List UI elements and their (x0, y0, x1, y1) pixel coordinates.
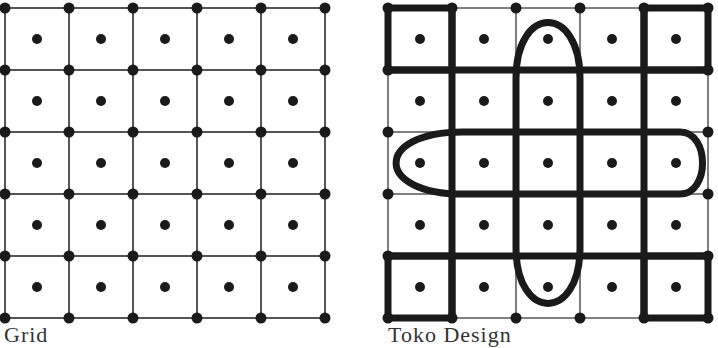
node-dot (320, 251, 331, 262)
center-dot (160, 220, 170, 230)
center-dot (224, 282, 234, 292)
node-dot (128, 65, 139, 76)
node-dot (320, 3, 331, 14)
node-dot (0, 65, 11, 76)
node-dot (320, 313, 331, 324)
node-dot (511, 313, 522, 324)
node-dot (64, 127, 75, 138)
node-dot (192, 189, 203, 200)
node-dot (64, 65, 75, 76)
center-dot (96, 282, 106, 292)
center-dot (32, 96, 42, 106)
node-dot (64, 313, 75, 324)
center-dot (415, 96, 425, 106)
center-dot (224, 220, 234, 230)
node-dot (192, 127, 203, 138)
center-dot (96, 158, 106, 168)
node-dot (256, 65, 267, 76)
node-dot (128, 313, 139, 324)
node-dot (383, 189, 394, 200)
center-dot (288, 34, 298, 44)
center-dot (479, 282, 489, 292)
node-dot (320, 127, 331, 138)
center-dot (543, 158, 553, 168)
center-dot (543, 96, 553, 106)
node-dot (0, 3, 11, 14)
center-dot (671, 34, 681, 44)
center-dot (479, 34, 489, 44)
center-dot (32, 34, 42, 44)
toko-design-diagram (383, 3, 714, 324)
node-dot (64, 189, 75, 200)
center-dot (32, 282, 42, 292)
center-dot (607, 96, 617, 106)
node-dot (64, 3, 75, 14)
center-dot (288, 96, 298, 106)
node-dot (192, 313, 203, 324)
node-dot (128, 127, 139, 138)
center-dot (607, 158, 617, 168)
node-dot (575, 313, 586, 324)
node-dot (383, 65, 394, 76)
center-dot (415, 282, 425, 292)
center-dot (607, 34, 617, 44)
node-dot (128, 189, 139, 200)
center-dot (415, 158, 425, 168)
center-dot (543, 220, 553, 230)
center-dot (607, 282, 617, 292)
node-dot (256, 251, 267, 262)
node-dot (383, 127, 394, 138)
center-dot (96, 34, 106, 44)
center-dot (479, 220, 489, 230)
node-dot (703, 313, 714, 324)
center-dot (224, 158, 234, 168)
node-dot (64, 251, 75, 262)
center-dot (288, 220, 298, 230)
node-dot (511, 3, 522, 14)
node-dot (320, 189, 331, 200)
node-dot (703, 127, 714, 138)
node-dot (639, 3, 650, 14)
center-dot (224, 96, 234, 106)
node-dot (256, 127, 267, 138)
node-dot (192, 251, 203, 262)
center-dot (543, 34, 553, 44)
center-dot (160, 96, 170, 106)
node-dot (0, 251, 11, 262)
center-dot (671, 220, 681, 230)
node-dot (0, 127, 11, 138)
node-dot (128, 251, 139, 262)
center-dot (479, 158, 489, 168)
center-dot (543, 282, 553, 292)
center-dot (671, 158, 681, 168)
center-dot (288, 158, 298, 168)
center-dot (671, 96, 681, 106)
center-dot (160, 34, 170, 44)
node-dot (383, 3, 394, 14)
node-dot (256, 313, 267, 324)
center-dot (607, 220, 617, 230)
node-dot (639, 313, 650, 324)
center-dot (288, 282, 298, 292)
center-dot (479, 96, 489, 106)
node-dot (256, 189, 267, 200)
node-dot (256, 3, 267, 14)
grid-caption: Grid (4, 322, 48, 348)
center-dot (96, 220, 106, 230)
node-dot (703, 3, 714, 14)
node-dot (575, 3, 586, 14)
grid-diagram (0, 3, 331, 324)
center-dot (32, 220, 42, 230)
node-dot (192, 65, 203, 76)
center-dot (415, 220, 425, 230)
center-dot (96, 96, 106, 106)
node-dot (703, 189, 714, 200)
node-dot (128, 3, 139, 14)
node-dot (703, 251, 714, 262)
center-dot (671, 282, 681, 292)
center-dot (224, 34, 234, 44)
node-dot (703, 65, 714, 76)
node-dot (320, 65, 331, 76)
center-dot (32, 158, 42, 168)
